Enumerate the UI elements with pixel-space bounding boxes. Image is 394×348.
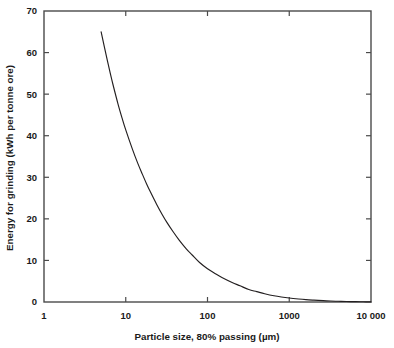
y-axis-title: Energy for grinding (kWh per tonne ore) (4, 65, 15, 251)
y-tick-label: 10 (26, 255, 37, 266)
y-tick-label: 20 (26, 213, 37, 224)
plot-background (44, 11, 371, 302)
x-tick-label: 10 (120, 310, 131, 321)
x-tick-label: 100 (200, 310, 216, 321)
x-tick-label: 10 000 (356, 310, 385, 321)
y-tick-label: 60 (26, 47, 37, 58)
y-tick-label: 70 (26, 5, 37, 16)
y-tick-label: 0 (32, 296, 37, 307)
y-tick-label: 50 (26, 89, 37, 100)
x-tick-label: 1000 (279, 310, 300, 321)
y-tick-label: 40 (26, 130, 37, 141)
x-tick-label: 1 (41, 310, 47, 321)
y-tick-labels-group: 010203040506070 (26, 5, 37, 307)
chart-figure: 110100100010 000 010203040506070 Particl… (0, 0, 394, 348)
y-tick-label: 30 (26, 172, 37, 183)
x-tick-labels-group: 110100100010 000 (41, 310, 385, 321)
chart-canvas: 110100100010 000 010203040506070 Particl… (0, 0, 394, 348)
x-axis-title: Particle size, 80% passing (µm) (134, 331, 279, 342)
